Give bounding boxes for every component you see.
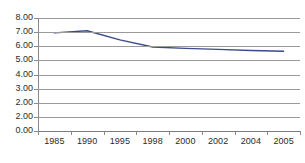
y-axis-tick-mark bbox=[34, 117, 38, 118]
y-axis-tick-label: 7.00 bbox=[1, 27, 33, 36]
line-chart: 8.007.006.005.004.003.002.002.000.00 198… bbox=[0, 0, 305, 163]
x-axis-tick-mark bbox=[235, 131, 236, 135]
x-axis-tick-mark bbox=[267, 131, 268, 135]
y-axis-tick-mark bbox=[34, 103, 38, 104]
x-axis-tick-label: 1990 bbox=[71, 136, 104, 152]
y-axis-tick-label: 2.00 bbox=[1, 112, 33, 121]
x-axis-tick-label: 1998 bbox=[136, 136, 169, 152]
gridline-6.00 bbox=[38, 46, 300, 47]
y-axis-tick-label: 5.00 bbox=[1, 55, 33, 64]
x-axis-tick-mark bbox=[71, 131, 72, 135]
gridline-5.00 bbox=[38, 60, 300, 61]
y-axis-tick-label: 8.00 bbox=[1, 13, 33, 22]
gridline-2.00 bbox=[38, 103, 300, 104]
gridline-4.00 bbox=[38, 75, 300, 76]
x-axis-tick-label: 2000 bbox=[169, 136, 202, 152]
x-axis-tick-mark bbox=[202, 131, 203, 135]
y-axis-tick-mark bbox=[34, 89, 38, 90]
x-axis-tick-mark bbox=[136, 131, 137, 135]
gridline-3.00 bbox=[38, 89, 300, 90]
y-axis-tick-mark bbox=[34, 46, 38, 47]
x-axis-tick-mark bbox=[104, 131, 105, 135]
plot-area bbox=[38, 18, 300, 131]
y-axis-tick-label: 3.00 bbox=[1, 84, 33, 93]
gridline-7.00 bbox=[38, 32, 300, 33]
x-axis-tick-label: 1985 bbox=[38, 136, 71, 152]
y-axis-labels: 8.007.006.005.004.003.002.002.000.00 bbox=[0, 0, 33, 163]
x-axis-tick-mark bbox=[169, 131, 170, 135]
y-axis-tick-label: 0.00 bbox=[1, 126, 33, 135]
y-axis-tick-mark bbox=[34, 32, 38, 33]
x-axis-tick-mark bbox=[300, 131, 301, 135]
y-axis-tick-label: 6.00 bbox=[1, 41, 33, 50]
x-axis-tick-label: 2005 bbox=[267, 136, 300, 152]
y-axis-tick-mark bbox=[34, 60, 38, 61]
y-axis-tick-label: 4.00 bbox=[1, 70, 33, 79]
gridline-8.00 bbox=[38, 18, 300, 19]
series-1-polyline bbox=[54, 31, 283, 51]
x-axis-tick-mark bbox=[38, 131, 39, 135]
x-axis-tick-label: 2002 bbox=[202, 136, 235, 152]
x-axis-labels: 19851990199519982000200220042005 bbox=[38, 136, 300, 152]
y-axis-tick-mark bbox=[34, 75, 38, 76]
x-axis-tick-label: 2004 bbox=[235, 136, 268, 152]
y-axis-tick-label: 2.00 bbox=[1, 98, 33, 107]
y-axis-tick-mark bbox=[34, 18, 38, 19]
gridline-2.00 bbox=[38, 117, 300, 118]
x-axis-tick-label: 1995 bbox=[104, 136, 137, 152]
